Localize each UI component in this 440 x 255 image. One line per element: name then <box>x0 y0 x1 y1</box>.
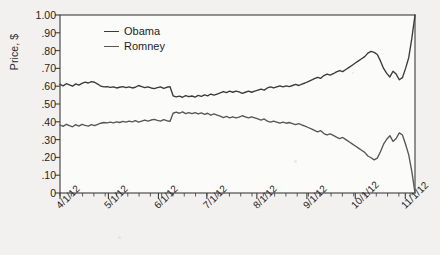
chart-figure: Price, $ 1.00.90.80.70.60.50.40.30.20.10… <box>0 0 440 255</box>
y-axis-tick-label: .70 <box>26 63 56 73</box>
y-axis-tick-label: 1.00 <box>26 10 56 20</box>
legend-swatch-obama <box>104 31 119 32</box>
chart-plot-area <box>0 0 440 255</box>
y-axis-tick-label: .40 <box>26 117 56 127</box>
y-axis-tick-label: .10 <box>26 170 56 180</box>
y-axis-tick-label: .60 <box>26 81 56 91</box>
y-axis-tick-label: .90 <box>26 28 56 38</box>
legend-entry-romney: Romney <box>104 39 165 54</box>
y-axis-tick-label: .50 <box>26 99 56 109</box>
y-axis-tick-label: .30 <box>26 135 56 145</box>
legend-entry-obama: Obama <box>104 24 165 39</box>
scan-speck <box>294 160 297 163</box>
legend-label: Romney <box>124 40 165 53</box>
y-axis-tick-label: .20 <box>26 152 56 162</box>
y-axis-tick-label: .80 <box>26 46 56 56</box>
y-axis-tick-label: 0 <box>26 188 56 198</box>
legend-label: Obama <box>124 25 160 38</box>
scan-speck <box>352 72 354 74</box>
legend-swatch-romney <box>104 46 119 47</box>
chart-legend: ObamaRomney <box>104 24 165 54</box>
y-axis-tick-labels: 1.00.90.80.70.60.50.40.30.20.100 <box>22 0 56 255</box>
scan-speck <box>118 236 121 239</box>
